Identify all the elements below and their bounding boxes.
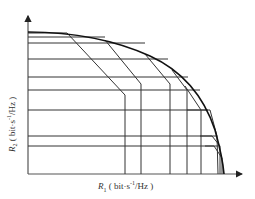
horizontal-rate-lines bbox=[28, 33, 218, 146]
x-unit-post: /Hz ) bbox=[135, 181, 153, 191]
capacity-boundary-curve bbox=[28, 32, 224, 174]
y-unit-post: /Hz ) bbox=[7, 97, 17, 115]
x-unit: ( bit·s bbox=[107, 181, 131, 191]
y-symbol: R bbox=[7, 147, 17, 153]
y-axis-label: R2 ( bit·s-1/Hz ) bbox=[6, 74, 19, 174]
rate-region-diagram bbox=[0, 0, 255, 199]
y-unit: ( bit·s bbox=[7, 120, 17, 144]
y-unit-sup: -1 bbox=[6, 115, 12, 120]
y-subscript: 2 bbox=[12, 144, 18, 147]
x-axis-label: R1 ( bit·s-1/Hz ) bbox=[98, 180, 153, 193]
